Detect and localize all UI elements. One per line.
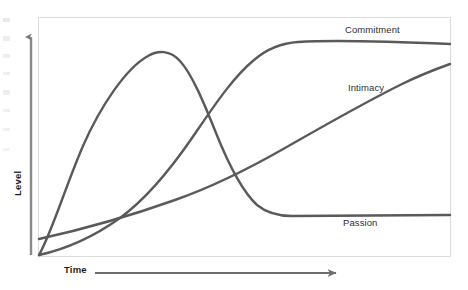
y-axis-title: Level <box>12 171 23 196</box>
chart-curves-layer <box>0 0 468 290</box>
series-label-commitment: Commitment <box>345 24 400 35</box>
x-axis-title: Time <box>64 264 87 275</box>
relationship-triangular-love-chart: Commitment Intimacy Passion Time Level <box>0 0 468 290</box>
series-label-intimacy: Intimacy <box>348 82 384 93</box>
series-label-passion: Passion <box>343 217 378 228</box>
curve-intimacy <box>39 64 450 239</box>
